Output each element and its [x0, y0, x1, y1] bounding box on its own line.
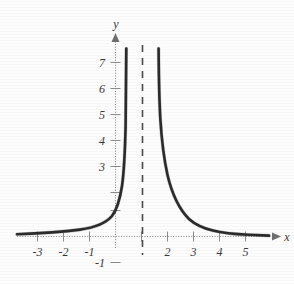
- x-tick-label-minus3: -3: [33, 245, 43, 259]
- curve-left-branch: [17, 49, 126, 235]
- y-tick-label-5: 5: [99, 108, 105, 122]
- x-axis-arrowhead: [272, 233, 281, 241]
- y-axis-arrowhead: [112, 33, 120, 42]
- left-branch-shadow: [17, 49, 126, 235]
- right-branch-shadow: [159, 49, 269, 236]
- function-plot: -3 -2 -1 2 3 4 5 7 6 5 4 3 -1 y x: [0, 0, 294, 284]
- x-tick-label-minus2: -2: [59, 245, 69, 259]
- x-tick-label-minus1: -1: [85, 245, 95, 259]
- x-tick-label-3: 3: [190, 245, 197, 259]
- y-tick-label-3: 3: [98, 160, 105, 174]
- y-tick-label-7: 7: [99, 56, 106, 70]
- x-axis-label: x: [283, 230, 290, 244]
- y-tick-label-4: 4: [99, 134, 105, 148]
- y-tick-label-6: 6: [99, 82, 105, 96]
- x-tick-label-2: 2: [165, 245, 171, 259]
- x-axis-ticks: [38, 232, 246, 242]
- y-axis-ticks: [111, 63, 121, 263]
- curve-right-branch: [159, 49, 269, 236]
- graph-figure: -3 -2 -1 2 3 4 5 7 6 5 4 3 -1 y x: [0, 0, 294, 284]
- y-axis-label: y: [112, 17, 119, 31]
- y-tick-label-minus1: -1: [95, 256, 105, 270]
- x-tick-label-5: 5: [243, 245, 249, 259]
- x-tick-label-4: 4: [217, 245, 223, 259]
